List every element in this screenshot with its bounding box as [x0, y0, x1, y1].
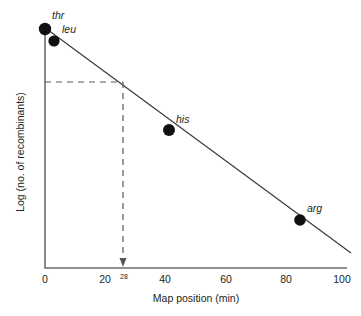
data-label-arg: arg: [307, 202, 322, 214]
y-axis-title: Log (no. of recombinants): [14, 92, 26, 212]
map-position-arrow-icon: [120, 258, 127, 267]
recombination-frequency-scatter-plot: thr leu his arg 0 20 40 60 80 100 28 Map…: [0, 0, 361, 316]
data-label-thr: thr: [52, 9, 65, 21]
data-point-leu: [48, 35, 59, 46]
data-point-thr: [39, 23, 51, 35]
data-point-arg: [294, 214, 306, 226]
data-label-leu: leu: [62, 23, 76, 35]
x-tick-label-0: 0: [42, 273, 48, 285]
x-tick-label-60: 60: [220, 273, 232, 285]
plot-axes: [45, 26, 347, 268]
x-tick-label-80: 80: [280, 273, 292, 285]
data-label-his: his: [176, 113, 190, 125]
x-tick-label-20: 20: [99, 273, 111, 285]
chart-figure: thr leu his arg 0 20 40 60 80 100 28 Map…: [0, 0, 361, 316]
x-tick-label-40: 40: [159, 273, 171, 285]
x-tick-label-100: 100: [333, 273, 351, 285]
x-axis-title: Map position (min): [153, 292, 239, 304]
data-point-his: [163, 124, 175, 136]
x-tick-label-28-marker: 28: [120, 273, 128, 280]
